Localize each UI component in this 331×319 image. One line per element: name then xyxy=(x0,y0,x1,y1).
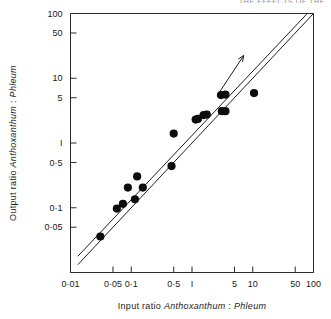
y-tick-label: 0·5 xyxy=(49,158,62,168)
data-points-series xyxy=(96,89,258,241)
x-tick-label: 5 xyxy=(232,279,237,289)
y-tick-label: 50 xyxy=(52,28,62,38)
figure-container: THE EFFECTS OF THE 0·050·10·5I51050100 0… xyxy=(0,0,331,319)
data-point xyxy=(133,172,141,180)
data-point xyxy=(221,107,229,115)
scatter-plot: 0·050·10·5I51050100 0·010·050·10·5I51050… xyxy=(0,0,331,319)
y-tick-label: 100 xyxy=(47,9,62,19)
y-axis-title: Output ratio Anthoxanthum : Phleum xyxy=(8,65,18,221)
x-tick-label: 100 xyxy=(306,279,321,289)
trend-arrow xyxy=(220,55,244,91)
x-tick-label: I xyxy=(191,279,194,289)
x-axis-ticks xyxy=(71,267,314,273)
y-axis-tick-labels: 0·050·10·5I51050100 xyxy=(44,9,62,233)
x-tick-label: 10 xyxy=(248,279,258,289)
data-point xyxy=(131,195,139,203)
data-point xyxy=(139,183,147,191)
data-point xyxy=(96,232,104,240)
data-point xyxy=(170,129,178,137)
one-to-one-line xyxy=(78,14,314,265)
data-point xyxy=(203,110,211,118)
y-axis-ticks xyxy=(71,14,77,228)
offset-line xyxy=(78,14,307,257)
x-tick-label: 0·1 xyxy=(125,279,138,289)
x-tick-label: 0·05 xyxy=(104,279,122,289)
data-point xyxy=(221,90,229,98)
x-axis-title: Input ratio Anthoxanthum : Phleum xyxy=(118,301,267,311)
reference-lines xyxy=(78,14,314,265)
data-point xyxy=(250,89,258,97)
y-tick-label: I xyxy=(60,138,63,148)
plot-annotations xyxy=(220,55,244,91)
y-tick-label: 0·1 xyxy=(49,203,62,213)
x-axis-tick-labels: 0·010·050·10·5I51050100 xyxy=(61,279,321,289)
data-point xyxy=(124,183,132,191)
y-tick-label: 10 xyxy=(52,73,62,83)
y-tick-label: 5 xyxy=(57,93,62,103)
data-point xyxy=(119,200,127,208)
data-point xyxy=(167,162,175,170)
x-tick-label: 50 xyxy=(290,279,300,289)
x-tick-label: 0·01 xyxy=(61,279,79,289)
y-tick-label: 0·05 xyxy=(44,222,62,232)
x-tick-label: 0·5 xyxy=(167,279,180,289)
